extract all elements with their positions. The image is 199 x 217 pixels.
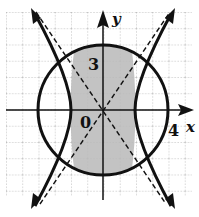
x-mark-label: 4	[168, 121, 179, 140]
y-axis-label: y	[111, 10, 122, 28]
graph: y x 3 0 4	[0, 0, 199, 217]
origin-label: 0	[80, 113, 91, 132]
x-axis-label: x	[185, 118, 196, 136]
y-mark-label: 3	[88, 55, 99, 74]
